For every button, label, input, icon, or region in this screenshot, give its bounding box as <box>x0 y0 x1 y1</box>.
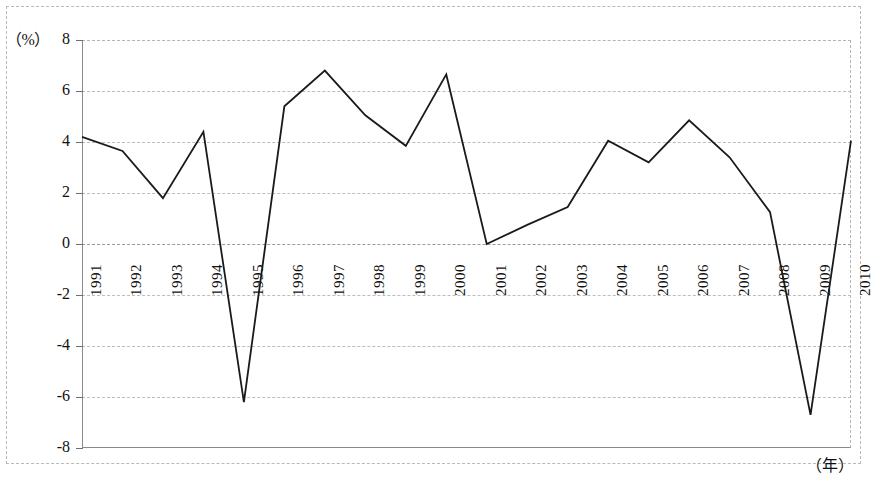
x-tick-label-1999: 1999 <box>413 264 428 296</box>
y-tick-label-0: 0 <box>36 235 70 251</box>
x-tick-label-2009: 2009 <box>818 264 833 296</box>
y-tick-mark--4 <box>76 346 83 347</box>
x-tick-label-1996: 1996 <box>291 264 306 296</box>
gridline--6 <box>82 397 851 398</box>
y-tick-label--4: -4 <box>36 337 70 353</box>
gridline--4 <box>82 346 851 347</box>
x-tick-label-2006: 2006 <box>696 264 711 296</box>
gridline-4 <box>82 142 851 143</box>
x-tick-label-1991: 1991 <box>89 264 104 296</box>
gridline-0 <box>82 244 851 245</box>
y-tick-mark-6 <box>76 91 83 92</box>
y-tick-label-6: 6 <box>36 82 70 98</box>
y-tick-label--8: -8 <box>36 439 70 455</box>
x-tick-label-1995: 1995 <box>251 264 266 296</box>
y-tick-mark--6 <box>76 397 83 398</box>
x-tick-label-2002: 2002 <box>534 264 549 296</box>
x-tick-label-2001: 2001 <box>494 264 509 296</box>
gridline-2 <box>82 193 851 194</box>
y-tick-label-8: 8 <box>36 31 70 47</box>
x-tick-label-2000: 2000 <box>453 264 468 296</box>
gridline-6 <box>82 91 851 92</box>
y-tick-label--2: -2 <box>36 286 70 302</box>
x-tick-label-2004: 2004 <box>615 264 630 296</box>
x-tick-label-2010: 2010 <box>858 264 873 296</box>
y-tick-label-4: 4 <box>36 133 70 149</box>
x-tick-label-2008: 2008 <box>777 264 792 296</box>
x-tick-label-1993: 1993 <box>170 264 185 296</box>
y-tick-mark-0 <box>76 244 83 245</box>
x-tick-label-1992: 1992 <box>129 264 144 296</box>
x-tick-label-1994: 1994 <box>210 264 225 296</box>
y-tick-mark--2 <box>76 295 83 296</box>
y-tick-label-2: 2 <box>36 184 70 200</box>
x-tick-label-2005: 2005 <box>656 264 671 296</box>
x-tick-label-1997: 1997 <box>332 264 347 296</box>
y-tick-label--6: -6 <box>36 388 70 404</box>
y-tick-mark-8 <box>76 40 83 41</box>
x-tick-label-1998: 1998 <box>372 264 387 296</box>
x-tick-label-2003: 2003 <box>575 264 590 296</box>
y-tick-mark-4 <box>76 142 83 143</box>
y-tick-mark--8 <box>76 448 83 449</box>
y-tick-mark-2 <box>76 193 83 194</box>
x-axis-label: （年） <box>806 452 854 476</box>
x-tick-label-2007: 2007 <box>737 264 752 296</box>
